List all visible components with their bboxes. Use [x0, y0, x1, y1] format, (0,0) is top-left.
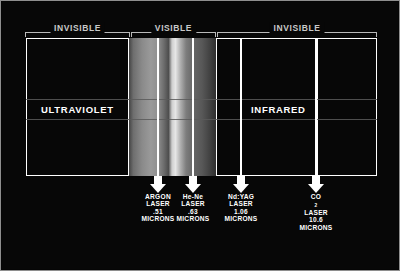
band-label-infrared: INFRARED	[251, 104, 306, 115]
bracket-tick-left	[217, 32, 218, 37]
horizontal-rule-bottom	[26, 119, 377, 120]
bracket-tick-right	[215, 32, 216, 37]
bracket-label: INVISIBLE	[50, 22, 105, 34]
callout-text: CO2 LASER 10.6 MICRONS	[285, 193, 347, 231]
callout-ndyag-laser: Nd:YAG LASER 1.06 MICRONS	[210, 176, 272, 223]
bracket-tick-left	[131, 32, 132, 37]
laser-unit: MICRONS	[210, 215, 272, 222]
marker-line-hene	[192, 38, 194, 176]
diagram-stage: INVISIBLE VISIBLE INVISIBLE	[2, 2, 398, 269]
horizontal-rule-top	[26, 99, 377, 100]
spectrum-gradient	[128, 38, 216, 176]
bracket-label: VISIBLE	[151, 22, 196, 34]
bracket-label: INVISIBLE	[270, 22, 325, 34]
laser-name: CO2	[285, 193, 347, 209]
bracket-tick-right	[129, 32, 130, 37]
laser-name-base: CO	[285, 193, 347, 200]
laser-kind: LASER	[210, 200, 272, 207]
laser-unit: MICRONS	[285, 224, 347, 231]
infrared-box-right	[317, 38, 377, 176]
laser-name: Nd:YAG	[210, 193, 272, 200]
marker-line-ndyag	[240, 38, 242, 176]
arrow-head	[185, 184, 201, 193]
laser-value: 1.06	[210, 208, 272, 215]
arrow-head	[308, 184, 324, 193]
marker-line-co2	[315, 38, 317, 176]
bracket-invisible-ir: INVISIBLE	[217, 22, 377, 35]
bracket-tick-right	[376, 32, 377, 37]
callout-co2-laser: CO2 LASER 10.6 MICRONS	[285, 176, 347, 231]
callout-text: Nd:YAG LASER 1.06 MICRONS	[210, 193, 272, 223]
bracket-visible: VISIBLE	[131, 22, 216, 35]
laser-name-subscript: 2	[315, 203, 318, 208]
laser-kind: LASER	[285, 209, 347, 216]
down-arrow-icon	[285, 176, 347, 193]
band-label-ultraviolet: ULTRAVIOLET	[41, 104, 114, 115]
marker-line-argon	[157, 38, 159, 176]
down-arrow-icon	[210, 176, 272, 193]
bracket-invisible-uv: INVISIBLE	[25, 22, 130, 35]
bracket-tick-left	[25, 32, 26, 37]
laser-value: 10.6	[285, 216, 347, 223]
visible-spectrum-band	[128, 38, 216, 176]
slide-frame: INVISIBLE VISIBLE INVISIBLE	[0, 0, 400, 271]
arrow-head	[233, 184, 249, 193]
